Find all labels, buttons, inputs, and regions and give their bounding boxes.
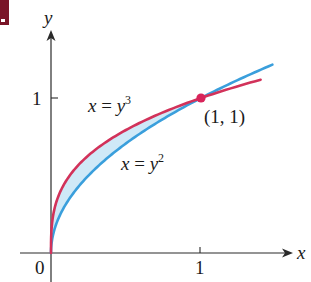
- intersection-point: [196, 93, 205, 102]
- x-axis-label: x: [296, 242, 306, 263]
- shaded-region: [51, 98, 201, 253]
- region-between-curves-figure: y x 0 1 1 x = y3 x = y2 (1, 1): [0, 0, 311, 282]
- origin-label: 0: [35, 257, 45, 278]
- x-tick-label-1: 1: [195, 257, 205, 278]
- label-base: y: [148, 153, 159, 174]
- corner-mark-notch: [1, 19, 5, 22]
- label-x-equals-y-squared: x = y2: [120, 151, 164, 174]
- label-eq: =: [96, 95, 116, 116]
- y-axis-label: y: [42, 7, 53, 28]
- label-exponent: 2: [158, 151, 164, 165]
- label-x-equals-y-cubed: x = y3: [87, 93, 131, 116]
- intersection-label: (1, 1): [204, 106, 245, 128]
- y-tick-label-1: 1: [32, 88, 42, 109]
- label-exponent: 3: [125, 93, 131, 107]
- x-axis: [20, 247, 293, 258]
- label-base: y: [115, 95, 126, 116]
- label-eq: =: [129, 153, 149, 174]
